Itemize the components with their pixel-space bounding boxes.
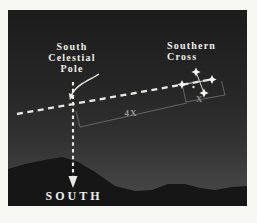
night-sky-photo: South Celestial Pole Southern Cross 4X X… (8, 10, 247, 206)
south-direction-label: SOUTH (34, 189, 114, 203)
distance-x-label: X (192, 95, 206, 104)
cross-axis-line-short (182, 80, 212, 85)
star-icon (178, 80, 187, 89)
south-celestial-pole-label: South Celestial Pole (22, 41, 122, 74)
page: { "figure": { "labels": { "pole": "South… (0, 0, 257, 223)
star-icon (208, 75, 217, 84)
pointer-arrow-icon (71, 74, 99, 96)
star-icon (192, 68, 201, 77)
distance-4x-label: 4X (119, 108, 143, 118)
small-star-icon (192, 86, 194, 88)
southern-cross-label: Southern Cross (167, 41, 245, 62)
